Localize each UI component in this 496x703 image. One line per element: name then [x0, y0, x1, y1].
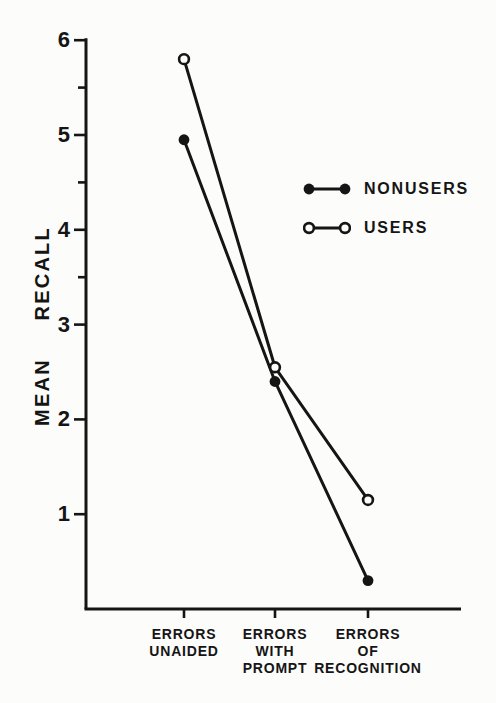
- legend-item-users: USERS: [303, 215, 469, 241]
- legend-item-nonusers: NONUSERS: [303, 176, 469, 202]
- y-tick-label-3: 3: [31, 312, 71, 338]
- x-category-label-line: ERRORS: [149, 626, 218, 643]
- nonusers-data-point-2: [363, 575, 374, 586]
- users-data-point-2: [363, 495, 373, 505]
- x-category-label-line: OF: [314, 643, 422, 660]
- y-tick-label-2: 2: [31, 406, 71, 432]
- users-data-point-0: [179, 54, 189, 64]
- x-category-label-line: ERRORS: [243, 626, 308, 643]
- filled-circle-marker-icon: [303, 181, 351, 197]
- x-category-label-line: PROMPT: [243, 660, 308, 677]
- legend-label-nonusers: NONUSERS: [364, 180, 469, 198]
- x-category-label-0: ERRORSUNAIDED: [149, 626, 218, 660]
- y-tick-label-1: 1: [31, 501, 71, 527]
- x-category-label-line: WITH: [243, 643, 308, 660]
- x-category-label-2: ERRORSOFRECOGNITION: [314, 626, 422, 677]
- open-circle-marker-icon: [303, 220, 351, 236]
- series-line-users: [184, 59, 368, 500]
- x-category-label-line: ERRORS: [314, 626, 422, 643]
- y-tick-label-4: 4: [31, 217, 71, 243]
- x-category-label-1: ERRORSWITHPROMPT: [243, 626, 308, 677]
- legend-label-users: USERS: [364, 219, 428, 237]
- y-tick-label-5: 5: [31, 122, 71, 148]
- x-category-label-line: RECOGNITION: [314, 660, 422, 677]
- nonusers-data-point-0: [179, 134, 190, 145]
- scanned-figure-page: MEAN RECALL 123456 ERRORSUNAIDEDERRORSWI…: [0, 0, 496, 703]
- nonusers-data-point-1: [270, 376, 281, 387]
- y-tick-label-6: 6: [31, 27, 71, 53]
- users-data-point-1: [270, 362, 280, 372]
- plot-canvas: [0, 0, 496, 703]
- x-category-label-line: UNAIDED: [149, 643, 218, 660]
- legend: NONUSERS USERS: [303, 176, 469, 254]
